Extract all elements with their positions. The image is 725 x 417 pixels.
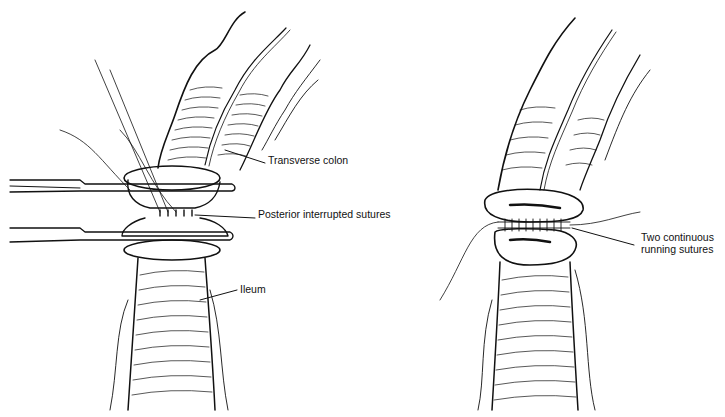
label-ileum: Ileum	[240, 283, 266, 295]
right-panel-drawing	[440, 18, 650, 410]
label-transverse-colon: Transverse colon	[268, 154, 348, 166]
label-posterior-interrupted-sutures: Posterior interrupted sutures	[258, 208, 390, 220]
label-two-continuous-running-sutures: Two continuous running sutures	[641, 231, 714, 255]
anastomosis-illustration: Transverse colon Posterior interrupted s…	[0, 0, 725, 417]
